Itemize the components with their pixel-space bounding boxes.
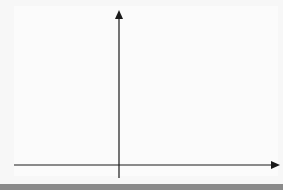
grid-svg xyxy=(0,0,283,190)
bottom-bar xyxy=(0,184,283,190)
coordinate-grid-figure xyxy=(0,0,283,190)
grid-background xyxy=(14,6,278,176)
